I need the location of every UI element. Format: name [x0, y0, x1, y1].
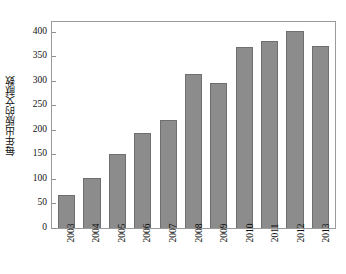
bar-chart-figure: 每年出版的文献数 050100150200250300350400 200320…: [0, 0, 346, 274]
bar: [83, 178, 100, 228]
y-tick-mark: [52, 130, 56, 131]
x-tick-label-slot: 2003: [53, 231, 79, 273]
bar-slot: [308, 22, 333, 228]
x-tick-label: 2005: [117, 224, 127, 243]
y-tick-mark: [52, 228, 56, 229]
x-tick-label: 2003: [66, 224, 76, 243]
y-tick-label: 0: [42, 222, 47, 232]
bar: [286, 31, 303, 228]
x-tick-label: 2009: [219, 224, 229, 243]
x-tick-label: 2008: [194, 224, 204, 243]
bar: [160, 120, 177, 228]
x-axis-tick-labels: 2003200420052006200720082009201020112012…: [51, 231, 336, 273]
bar-slot: [206, 22, 231, 228]
y-tick-mark: [52, 81, 56, 82]
bar: [210, 83, 227, 228]
x-tick-label-slot: 2006: [130, 231, 156, 273]
bar: [261, 41, 278, 228]
y-tick-mark: [52, 105, 56, 106]
y-tick-mark: [52, 179, 56, 180]
x-tick-label: 2006: [142, 224, 152, 243]
bar-slot: [79, 22, 104, 228]
bar: [236, 47, 253, 228]
x-tick-label: 2011: [270, 224, 280, 243]
x-tick-label-slot: 2013: [308, 231, 334, 273]
bar-slot: [282, 22, 307, 228]
bar-slot: [232, 22, 257, 228]
x-tick-label: 2013: [321, 224, 331, 243]
y-tick-label: 200: [33, 124, 47, 134]
x-tick-label: 2007: [168, 224, 178, 243]
x-tick-label-slot: 2011: [257, 231, 283, 273]
bar: [109, 154, 126, 228]
x-tick-label-slot: 2009: [206, 231, 232, 273]
y-tick-label: 400: [33, 26, 47, 36]
y-tick-label: 100: [33, 173, 47, 183]
bar-series: [52, 22, 335, 228]
bar: [312, 46, 329, 228]
x-tick-label-slot: 2008: [181, 231, 207, 273]
x-tick-label-slot: 2005: [104, 231, 130, 273]
x-tick-label-slot: 2010: [232, 231, 258, 273]
x-tick-label: 2012: [296, 224, 306, 243]
y-tick-mark: [52, 203, 56, 204]
y-axis-title-text: 每年出版的文献数: [5, 76, 16, 156]
bar-slot: [130, 22, 155, 228]
bar: [134, 133, 151, 228]
y-tick-label: 50: [38, 197, 48, 207]
y-tick-label: 250: [33, 99, 47, 109]
plot-area: [51, 21, 336, 229]
y-tick-mark: [52, 32, 56, 33]
y-axis-tick-labels: 050100150200250300350400: [16, 0, 50, 240]
x-tick-label: 2010: [245, 224, 255, 243]
x-tick-label-slot: 2004: [79, 231, 105, 273]
x-tick-label-slot: 2012: [283, 231, 309, 273]
bar-slot: [257, 22, 282, 228]
bar-slot: [54, 22, 79, 228]
bar: [185, 74, 202, 229]
x-tick-label-slot: 2007: [155, 231, 181, 273]
bar-slot: [155, 22, 180, 228]
y-tick-label: 300: [33, 75, 47, 85]
bar-slot: [181, 22, 206, 228]
y-tick-label: 150: [33, 148, 47, 158]
y-tick-mark: [52, 56, 56, 57]
y-tick-mark: [52, 154, 56, 155]
y-tick-label: 350: [33, 50, 47, 60]
x-tick-label: 2004: [91, 224, 101, 243]
bar-slot: [105, 22, 130, 228]
